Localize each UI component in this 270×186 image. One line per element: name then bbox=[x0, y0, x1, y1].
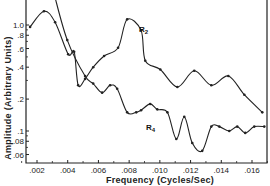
data-point bbox=[243, 93, 246, 96]
y-tick-label: .1 bbox=[17, 127, 24, 136]
x-tick-label: .014 bbox=[213, 166, 229, 175]
data-point bbox=[183, 116, 186, 119]
data-point bbox=[201, 150, 204, 153]
data-point bbox=[135, 111, 138, 114]
x-axis-title: Frequency (Cycles/Sec) bbox=[106, 175, 214, 185]
data-point bbox=[253, 125, 256, 128]
data-point bbox=[101, 91, 104, 94]
series-label-r2: R2 bbox=[139, 25, 149, 35]
series-r2 bbox=[29, 10, 264, 114]
data-point bbox=[77, 84, 80, 87]
data-point bbox=[236, 125, 239, 128]
y-tick-label: 1.0 bbox=[13, 21, 25, 30]
x-tick-label: .012 bbox=[183, 166, 199, 175]
series-label-r4: R4 bbox=[146, 123, 156, 133]
data-point bbox=[73, 50, 76, 53]
data-point bbox=[54, 21, 57, 24]
y-tick-label: .4 bbox=[17, 63, 24, 72]
data-point bbox=[156, 108, 159, 111]
data-point bbox=[228, 130, 231, 133]
y-tick-label: .08 bbox=[13, 137, 25, 146]
series-r4 bbox=[54, 0, 266, 152]
x-tick-label: .002 bbox=[29, 166, 45, 175]
data-point bbox=[193, 69, 196, 72]
data-point bbox=[29, 26, 32, 29]
data-point bbox=[103, 55, 106, 58]
y-tick-label: .6 bbox=[17, 45, 24, 54]
x-tick-label: .016 bbox=[244, 166, 260, 175]
y-tick-label: .8 bbox=[17, 31, 24, 40]
series-line bbox=[30, 11, 262, 112]
x-tick-label: .006 bbox=[91, 166, 107, 175]
data-point bbox=[126, 18, 129, 21]
data-point bbox=[175, 138, 178, 141]
data-point bbox=[117, 46, 120, 49]
data-point bbox=[84, 75, 87, 78]
data-point bbox=[126, 111, 129, 114]
data-point bbox=[92, 66, 95, 69]
data-point bbox=[159, 68, 162, 71]
data-point bbox=[244, 132, 247, 135]
x-tick-label: .004 bbox=[60, 166, 76, 175]
data-point bbox=[261, 111, 264, 114]
y-tick-label: .2 bbox=[17, 95, 24, 104]
x-tick-label: .008 bbox=[121, 166, 137, 175]
data-point bbox=[140, 109, 143, 112]
data-point bbox=[67, 53, 70, 56]
data-point bbox=[166, 111, 169, 114]
data-point bbox=[109, 84, 112, 87]
amplitude-frequency-chart: .06.08.1.2.4.6.81.0 .002.004.006.008.010… bbox=[0, 0, 270, 186]
y-tick-label: .06 bbox=[13, 151, 25, 160]
data-point bbox=[66, 39, 69, 42]
data-point bbox=[227, 75, 230, 78]
data-point bbox=[210, 125, 213, 128]
data-point bbox=[263, 125, 266, 128]
data-point bbox=[191, 142, 194, 145]
data-point bbox=[210, 84, 213, 87]
data-point bbox=[116, 88, 119, 91]
x-axis-ticks: .002.004.006.008.010.012.014.016 bbox=[22, 160, 268, 175]
chart-series: R2R4 bbox=[29, 0, 266, 152]
data-point bbox=[176, 86, 179, 89]
data-point bbox=[149, 103, 152, 106]
x-tick-label: .010 bbox=[152, 166, 168, 175]
data-point bbox=[218, 125, 221, 128]
data-point bbox=[92, 82, 95, 85]
data-point bbox=[43, 10, 46, 13]
y-axis-title: Amplitude (Arbitrary Units) bbox=[3, 36, 13, 160]
data-point bbox=[144, 59, 147, 62]
